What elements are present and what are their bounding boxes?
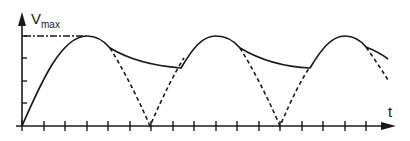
x-axis-label: t [388,103,393,120]
smoothed-output-curve [22,36,388,126]
ripple-diagram: Vmax t [0,0,410,141]
rectified-sine-curve [110,47,388,126]
y-axis-label: Vmax [31,10,60,30]
y-axis [18,12,27,126]
x-axis [16,121,396,131]
y-axis-arrow-icon [18,12,26,26]
x-axis-arrow-icon [381,122,396,130]
